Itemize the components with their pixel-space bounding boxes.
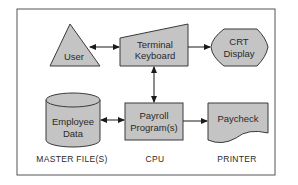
- paycheck-node: Paycheck: [208, 103, 268, 143]
- terminal-label-line1: Terminal: [137, 39, 173, 50]
- caption-master-files: MASTER FILE(S): [36, 154, 107, 164]
- caption-printer: PRINTER: [217, 154, 256, 164]
- payroll-flowchart: User Terminal Keyboard CRT Display Emplo…: [0, 0, 298, 185]
- paycheck-label: Paycheck: [217, 113, 258, 124]
- crt-label-line1: CRT: [229, 36, 249, 47]
- employee-label-line1: Employee: [52, 116, 94, 127]
- payroll-label-line2: Program(s): [130, 122, 178, 133]
- crt-label-line2: Display: [223, 48, 254, 59]
- terminal-label-line2: Keyboard: [135, 50, 176, 61]
- user-label: User: [64, 51, 84, 62]
- cylinder-top-icon: [46, 93, 100, 107]
- payroll-program-node: Payroll Program(s): [125, 103, 183, 140]
- caption-cpu: CPU: [146, 154, 165, 164]
- payroll-label-line1: Payroll: [139, 110, 168, 121]
- employee-data-node: Employee Data: [46, 93, 100, 147]
- user-node: User: [50, 24, 100, 66]
- employee-label-line2: Data: [63, 128, 84, 139]
- terminal-keyboard-node: Terminal Keyboard: [120, 24, 188, 66]
- crt-display-node: CRT Display: [211, 29, 268, 66]
